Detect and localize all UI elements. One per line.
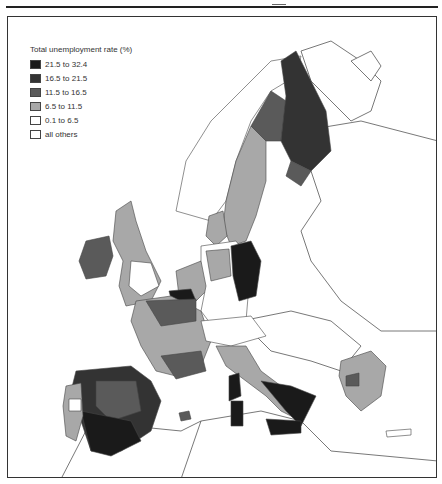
- legend-item: 6.5 to 11.5: [30, 99, 132, 113]
- legend-item: 0.1 to 6.5: [30, 113, 132, 127]
- legend-swatch: [30, 74, 41, 83]
- legend-swatch: [30, 88, 41, 97]
- legend-item: all others: [30, 127, 132, 141]
- legend-label: 21.5 to 32.4: [45, 60, 87, 69]
- map-frame: Total unemployment rate (%) 21.5 to 32.4…: [7, 16, 437, 478]
- legend-swatch: [30, 102, 41, 111]
- legend-swatch: [30, 116, 41, 125]
- legend-label: all others: [45, 130, 77, 139]
- legend-swatch: [30, 60, 41, 69]
- page-header-fragment: [272, 0, 286, 5]
- legend-label: 16.5 to 21.5: [45, 74, 87, 83]
- legend-swatch: [30, 130, 41, 139]
- legend-label: 0.1 to 6.5: [45, 116, 78, 125]
- legend-label: 6.5 to 11.5: [45, 102, 82, 111]
- legend-item: 16.5 to 21.5: [30, 71, 132, 85]
- page-top-rule: [6, 6, 438, 8]
- legend-item: 21.5 to 32.4: [30, 57, 132, 71]
- map-legend: Total unemployment rate (%) 21.5 to 32.4…: [30, 45, 132, 141]
- legend-label: 11.5 to 16.5: [45, 88, 87, 97]
- legend-item: 11.5 to 16.5: [30, 85, 132, 99]
- legend-title: Total unemployment rate (%): [30, 45, 132, 54]
